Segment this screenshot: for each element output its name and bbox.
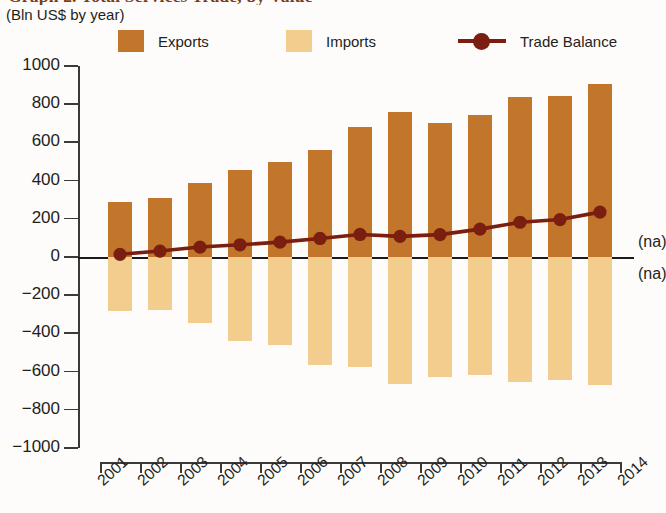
bar-imports: [308, 257, 333, 365]
y-tick-label: 600: [0, 131, 60, 151]
bar-exports: [308, 150, 333, 257]
bar-exports: [588, 84, 613, 257]
x-tick-label: 2001: [94, 453, 132, 489]
y-tick-mark: [64, 332, 78, 334]
bar-imports: [548, 257, 573, 380]
bar-imports: [148, 257, 173, 310]
y-tick-label: 400: [0, 170, 60, 190]
y-tick-label: 0: [0, 246, 60, 266]
bar-exports: [388, 112, 413, 257]
y-tick-label: −800: [0, 399, 60, 419]
y-tick-label: −200: [0, 284, 60, 304]
bar-imports: [268, 257, 293, 345]
x-tick-label: 2007: [334, 453, 372, 489]
y-tick-mark: [64, 256, 78, 258]
bar-imports: [228, 257, 253, 341]
y-tick-mark: [64, 180, 78, 182]
x-tick-label: 2012: [534, 453, 572, 489]
bar-exports: [548, 96, 573, 257]
x-tick-label: 2013: [574, 453, 612, 489]
bar-imports: [388, 257, 413, 384]
bar-exports: [348, 127, 373, 257]
y-tick-label: 1000: [0, 55, 60, 75]
y-tick-mark: [64, 65, 78, 67]
x-tick-label: 2003: [174, 453, 212, 489]
na-label-top: (na): [638, 233, 666, 251]
bar-imports: [188, 257, 213, 323]
bar-imports: [588, 257, 613, 385]
x-tick-label: 2008: [374, 453, 412, 489]
y-tick-label: 800: [0, 93, 60, 113]
bar-imports: [428, 257, 453, 377]
x-tick-label: 2010: [454, 453, 492, 489]
x-tick-label: 2009: [414, 453, 452, 489]
bar-imports: [508, 257, 533, 382]
x-tick-label: 2005: [254, 453, 292, 489]
bar-exports: [268, 162, 293, 258]
bar-exports: [228, 170, 253, 257]
y-tick-mark: [64, 141, 78, 143]
x-tick-label: 2002: [134, 453, 172, 489]
y-tick-label: 200: [0, 208, 60, 228]
bar-exports: [148, 198, 173, 257]
bar-exports: [108, 202, 133, 257]
y-tick-mark: [64, 447, 78, 449]
y-tick-label: −600: [0, 361, 60, 381]
na-label-bottom: (na): [638, 265, 666, 283]
y-tick-mark: [64, 409, 78, 411]
bar-imports: [108, 257, 133, 311]
bar-imports: [348, 257, 373, 367]
y-tick-mark: [64, 218, 78, 220]
bar-exports: [508, 97, 533, 257]
bar-imports: [468, 257, 493, 375]
y-tick-label: −400: [0, 322, 60, 342]
y-tick-mark: [64, 294, 78, 296]
bar-exports: [188, 183, 213, 257]
x-tick-label: 2006: [294, 453, 332, 489]
bar-exports: [428, 123, 453, 257]
bar-exports: [468, 115, 493, 257]
y-tick-mark: [64, 103, 78, 105]
y-tick-mark: [64, 371, 78, 373]
x-tick-label: 2004: [214, 453, 252, 489]
x-tick-label: 2011: [494, 454, 531, 490]
y-tick-label: −1000: [0, 437, 60, 457]
x-tick-label: 2014: [614, 453, 652, 489]
